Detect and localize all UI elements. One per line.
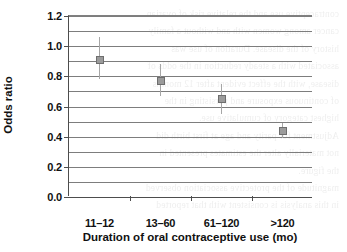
gridline bbox=[69, 107, 312, 108]
y-axis-tick bbox=[64, 197, 69, 198]
y-axis-tick-label: 0.4 bbox=[47, 131, 62, 143]
plot-area: 0.00.20.40.60.81.01.211–1213–6061–120>12… bbox=[68, 15, 312, 196]
data-marker bbox=[218, 95, 226, 103]
y-axis-tick-label: 0.2 bbox=[47, 161, 62, 173]
data-marker bbox=[279, 127, 287, 135]
gridline bbox=[69, 152, 312, 153]
gridline bbox=[69, 31, 312, 32]
y-axis-tick bbox=[64, 76, 69, 77]
x-axis-tick-label: 11–12 bbox=[85, 217, 114, 229]
gridline bbox=[69, 16, 312, 17]
data-marker bbox=[96, 56, 104, 64]
gridline bbox=[69, 46, 312, 47]
y-axis-title: Odds ratio bbox=[2, 76, 14, 134]
gridline bbox=[69, 167, 312, 168]
y-axis-tick bbox=[64, 107, 69, 108]
gridline bbox=[69, 182, 312, 183]
data-marker bbox=[157, 77, 165, 85]
gridline bbox=[69, 61, 312, 62]
x-axis-tick-label: 13–60 bbox=[146, 217, 176, 229]
chart-figure: 0.00.20.40.60.81.01.211–1213–6061–120>12… bbox=[0, 0, 347, 252]
y-axis-tick bbox=[64, 167, 69, 168]
gridline bbox=[69, 137, 312, 138]
gridline bbox=[69, 76, 312, 77]
x-axis-tick bbox=[252, 196, 253, 201]
y-axis-tick-label: 1.2 bbox=[47, 10, 62, 22]
x-axis-title: Duration of oral contraceptive use (mo) bbox=[83, 231, 298, 243]
y-axis-tick-label: 0.8 bbox=[47, 70, 62, 82]
y-axis-tick-label: 0.0 bbox=[47, 191, 62, 203]
gridline bbox=[69, 91, 312, 92]
y-axis-tick bbox=[64, 137, 69, 138]
y-axis-tick-label: 1.0 bbox=[47, 40, 62, 52]
x-axis-tick-label: 61–120 bbox=[204, 217, 240, 229]
x-axis-tick bbox=[130, 196, 131, 201]
y-axis-tick bbox=[64, 46, 69, 47]
y-axis-tick-label: 0.6 bbox=[47, 101, 62, 113]
gridline bbox=[69, 122, 312, 123]
y-axis-tick bbox=[64, 16, 69, 17]
x-axis-tick bbox=[191, 196, 192, 201]
x-axis-tick-label: >120 bbox=[271, 217, 295, 229]
